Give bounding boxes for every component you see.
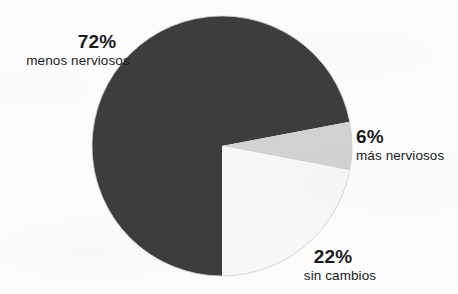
callout-sin-cambios-percent: 22% (284, 246, 396, 267)
callout-mas-nerviosos-label: más nerviosos (356, 148, 456, 163)
callout-sin-cambios: 22% sin cambios (284, 246, 396, 283)
callout-sin-cambios-label: sin cambios (284, 268, 396, 283)
callout-mas-nerviosos-percent: 6% (356, 126, 456, 147)
pie-chart-figure: 72% menos nerviosos 6% más nerviosos 22%… (0, 0, 458, 294)
callout-menos-nerviosos: 72% menos nerviosos (14, 31, 142, 68)
callout-menos-nerviosos-label: menos nerviosos (14, 53, 142, 68)
callout-mas-nerviosos: 6% más nerviosos (356, 126, 456, 163)
callout-menos-nerviosos-percent: 72% (14, 31, 142, 52)
